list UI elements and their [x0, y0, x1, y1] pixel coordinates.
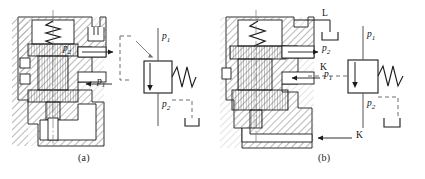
caption-a: (a) [78, 152, 90, 163]
label-p2-symbol-b: p2 [367, 98, 375, 111]
label-p1-port-a: p1 [97, 76, 105, 89]
label-p1-symbol-b: p1 [367, 29, 375, 42]
figure-root: p2 p1 p1 p2 [0, 0, 425, 179]
label-p2-port-a: p2 [63, 43, 71, 56]
symbol-b [308, 26, 403, 128]
label-p2-symbol-a: p2 [162, 99, 170, 112]
label-K-symbol-b: K [320, 62, 327, 72]
drain-boss-a [88, 27, 104, 41]
panel-a-drawing [0, 0, 212, 179]
label-p2-port-b: p2 [322, 43, 330, 56]
label-drain-port-L-b: L [322, 8, 328, 18]
panel-a: p2 p1 p1 p2 [0, 0, 212, 179]
label-p1-symbol-a: p1 [162, 31, 170, 44]
symbol-a [120, 28, 199, 126]
label-control-port-K-b: K [356, 130, 363, 140]
caption-b: (b) [318, 152, 330, 163]
